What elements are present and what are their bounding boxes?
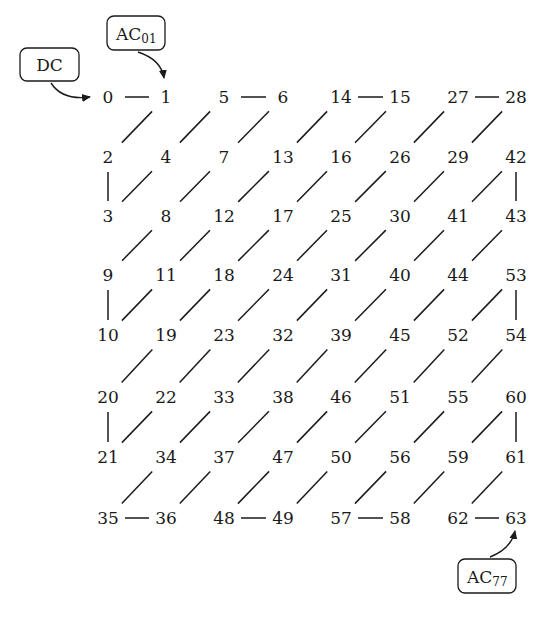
- coefficient-16: 16: [330, 147, 352, 167]
- coefficient-30: 30: [389, 206, 411, 226]
- scan-edge: [180, 471, 210, 503]
- coefficient-21: 21: [97, 447, 119, 467]
- scan-edge: [472, 289, 502, 320]
- coefficient-23: 23: [213, 325, 235, 345]
- coefficient-13: 13: [272, 147, 294, 167]
- zigzag-diagram: 0156141527282471316262942381217253041439…: [0, 0, 544, 620]
- callout-ac01-label: AC: [115, 24, 141, 44]
- coefficient-61: 61: [505, 447, 527, 467]
- callout-dc-label: DC: [36, 55, 63, 75]
- coefficient-50: 50: [330, 447, 352, 467]
- coefficient-49: 49: [272, 508, 294, 528]
- coefficient-46: 46: [330, 387, 352, 407]
- coefficient-grid: 0156141527282471316262942381217253041439…: [97, 87, 527, 528]
- scan-edge: [472, 350, 503, 383]
- scan-edge: [414, 230, 444, 260]
- coefficient-52: 52: [447, 325, 469, 345]
- coefficient-33: 33: [213, 387, 235, 407]
- scan-edge: [355, 349, 386, 382]
- scan-edge: [180, 230, 210, 260]
- scan-edge: [472, 411, 502, 442]
- callout-dc: DC: [20, 48, 90, 98]
- scan-edge: [414, 350, 445, 383]
- scan-edge: [122, 289, 152, 320]
- scan-edge: [472, 171, 502, 201]
- coefficient-11: 11: [155, 265, 177, 285]
- coefficient-47: 47: [272, 447, 294, 467]
- scan-edge: [122, 411, 152, 442]
- coefficient-35: 35: [97, 508, 119, 528]
- callout-ac77-subscript: 77: [492, 575, 507, 589]
- coefficient-22: 22: [155, 387, 177, 407]
- coefficient-40: 40: [389, 265, 411, 285]
- coefficient-56: 56: [389, 447, 411, 467]
- coefficient-14: 14: [330, 87, 352, 107]
- scan-edge: [472, 471, 502, 503]
- arrow-icon: [490, 531, 515, 557]
- coefficient-3: 3: [103, 206, 114, 226]
- scan-edge: [122, 230, 152, 260]
- scan-edge: [122, 471, 152, 503]
- coefficient-55: 55: [447, 387, 469, 407]
- coefficient-48: 48: [213, 508, 235, 528]
- scan-edge: [238, 471, 269, 503]
- scan-edge: [297, 171, 327, 201]
- scan-edge: [238, 230, 269, 261]
- scan-edge: [297, 411, 327, 442]
- scan-edge: [122, 111, 152, 142]
- scan-edge: [414, 471, 444, 503]
- coefficient-54: 54: [505, 325, 527, 345]
- coefficient-0: 0: [103, 87, 114, 107]
- callout-ac77-label: AC: [466, 567, 492, 587]
- scan-edge: [414, 111, 444, 142]
- coefficient-28: 28: [505, 87, 527, 107]
- coefficient-62: 62: [447, 508, 469, 528]
- scan-edge: [297, 471, 327, 503]
- coefficient-38: 38: [272, 387, 294, 407]
- coefficient-1: 1: [161, 87, 172, 107]
- scan-edge: [238, 171, 269, 202]
- coefficient-41: 41: [447, 206, 469, 226]
- scan-edge: [122, 350, 153, 383]
- scan-edge: [238, 111, 269, 142]
- scan-edge: [355, 230, 386, 261]
- scan-edge: [414, 289, 444, 320]
- coefficient-19: 19: [155, 325, 177, 345]
- scan-edge: [238, 289, 269, 320]
- scan-edge: [355, 111, 386, 142]
- coefficient-59: 59: [447, 447, 469, 467]
- coefficient-5: 5: [219, 87, 230, 107]
- scan-edge: [355, 171, 386, 202]
- callout-ac01-subscript: 01: [141, 32, 156, 46]
- coefficient-60: 60: [505, 387, 527, 407]
- coefficient-27: 27: [447, 87, 469, 107]
- coefficient-36: 36: [155, 508, 177, 528]
- coefficient-6: 6: [278, 87, 289, 107]
- coefficient-24: 24: [272, 265, 294, 285]
- scan-edge: [122, 171, 152, 201]
- coefficient-20: 20: [97, 387, 119, 407]
- scan-edge: [297, 289, 327, 320]
- coefficient-25: 25: [330, 206, 352, 226]
- callout-ac77: AC77: [458, 531, 516, 593]
- coefficient-51: 51: [389, 387, 411, 407]
- scan-edge: [472, 230, 502, 260]
- scan-edge: [238, 349, 269, 382]
- coefficient-42: 42: [505, 147, 527, 167]
- scan-edge: [355, 471, 386, 503]
- coefficient-63: 63: [505, 508, 527, 528]
- coefficient-44: 44: [447, 265, 469, 285]
- arrow-icon: [51, 83, 90, 98]
- coefficient-39: 39: [330, 325, 352, 345]
- scan-edge: [355, 411, 386, 442]
- scan-edge: [472, 111, 502, 142]
- scan-edge: [297, 230, 327, 260]
- coefficient-32: 32: [272, 325, 294, 345]
- coefficient-57: 57: [330, 508, 352, 528]
- coefficient-29: 29: [447, 147, 469, 167]
- scan-edge: [180, 111, 210, 142]
- coefficient-7: 7: [219, 147, 230, 167]
- coefficient-53: 53: [505, 265, 527, 285]
- callout-ac01: AC01: [107, 16, 165, 78]
- coefficient-37: 37: [213, 447, 235, 467]
